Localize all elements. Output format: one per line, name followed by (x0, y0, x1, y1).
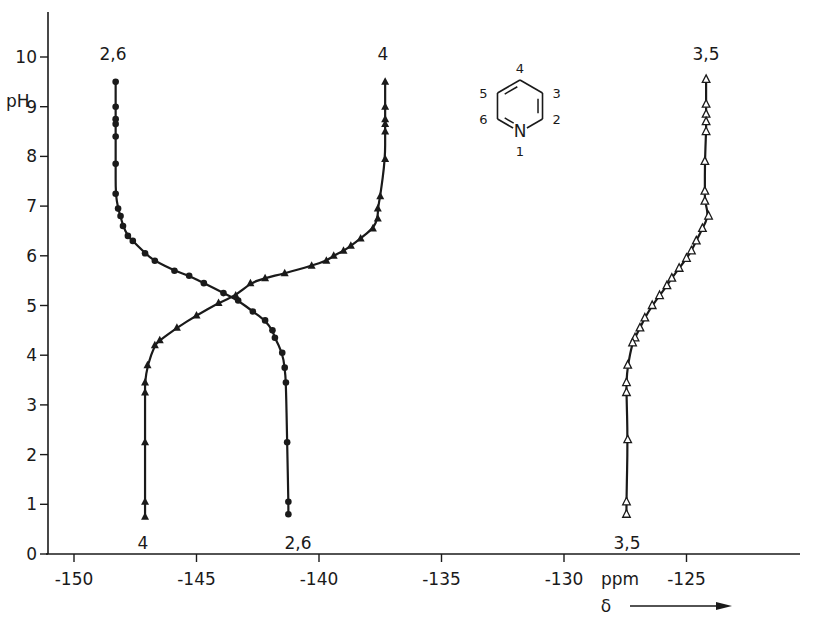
data-point-circle (112, 103, 119, 110)
delta-symbol: δ (601, 596, 611, 616)
y-tick-label: 5 (26, 296, 37, 316)
pyridine-structure: N123456 (479, 61, 560, 159)
ring-bond (527, 119, 543, 128)
data-point-triangle (376, 192, 384, 200)
data-point-triangle (141, 512, 149, 520)
data-point-triangle (381, 127, 389, 135)
position-5: 5 (479, 86, 487, 101)
position-2: 2 (552, 112, 560, 127)
data-point-circle (152, 257, 159, 264)
data-point-circle (142, 250, 149, 257)
data-point-open-triangle (702, 75, 710, 83)
data-point-triangle (374, 204, 382, 212)
curve-3-5 (626, 79, 707, 514)
y-tick-label: 0 (26, 544, 37, 564)
nitrogen-atom: N (514, 121, 527, 141)
position-4: 4 (516, 61, 524, 76)
label-3-5-bottom: 3,5 (613, 533, 640, 553)
y-tick-label: 3 (26, 395, 37, 415)
y-axis-title: pH (6, 91, 30, 111)
data-point-circle (112, 161, 119, 168)
y-tick-label: 10 (15, 47, 37, 67)
y-tick-label: 4 (26, 345, 37, 365)
position-3: 3 (552, 86, 560, 101)
data-point-open-triangle (701, 187, 709, 195)
data-point-triangle (141, 438, 149, 446)
data-point-circle (171, 267, 178, 274)
data-point-circle (250, 308, 257, 315)
data-point-circle (269, 327, 276, 334)
x-tick-label: -130 (545, 569, 584, 589)
position-1: 1 (516, 144, 524, 159)
position-6: 6 (479, 112, 487, 127)
data-point-triangle (144, 361, 152, 369)
data-point-open-triangle (623, 510, 631, 518)
data-point-open-triangle (702, 100, 710, 108)
label-2-6-bottom: 2,6 (284, 533, 311, 553)
x-tick-label: -125 (667, 569, 706, 589)
label-4-top: 4 (378, 44, 389, 64)
data-point-circle (112, 121, 119, 128)
data-point-circle (281, 364, 288, 371)
data-point-open-triangle (701, 197, 709, 205)
x-tick-label: -135 (422, 569, 461, 589)
y-tick-label: 6 (26, 246, 37, 266)
data-point-triangle (141, 388, 149, 396)
data-point-circle (112, 190, 119, 197)
data-point-circle (117, 213, 124, 220)
label-4-bottom: 4 (138, 533, 149, 553)
data-point-triangle (381, 154, 389, 162)
y-tick-label: 7 (26, 196, 37, 216)
data-point-circle (279, 349, 286, 356)
data-point-triangle (141, 378, 149, 386)
data-point-circle (220, 290, 227, 297)
data-point-open-triangle (623, 388, 631, 396)
data-point-open-triangle (705, 212, 713, 220)
data-point-circle (284, 439, 291, 446)
chart: -150-145-140-135-130-125012345678910pHpp… (0, 0, 816, 629)
data-point-circle (130, 238, 137, 245)
ring-bond (497, 119, 513, 128)
label-2-6-top: 2,6 (99, 44, 126, 64)
data-point-circle (112, 79, 119, 86)
y-tick-label: 8 (26, 146, 37, 166)
x-tick-label: -145 (177, 569, 216, 589)
data-point-circle (115, 205, 122, 212)
arrow-right-icon (716, 602, 732, 610)
curve-2-6 (116, 82, 289, 514)
y-tick-label: 1 (26, 494, 37, 514)
data-point-open-triangle (701, 157, 709, 165)
data-point-circle (262, 317, 269, 324)
data-point-circle (120, 223, 127, 230)
data-point-open-triangle (624, 435, 632, 443)
data-point-circle (201, 280, 208, 287)
x-tick-label: -150 (55, 569, 94, 589)
x-axis-title: ppm (601, 569, 639, 589)
curve-4 (145, 82, 385, 517)
data-point-circle (186, 272, 193, 279)
data-point-triangle (141, 497, 149, 505)
data-point-triangle (381, 77, 389, 85)
label-3-5-top: 3,5 (692, 44, 719, 64)
axes: -150-145-140-135-130-125012345678910pHpp… (6, 12, 800, 616)
data-point-open-triangle (702, 117, 710, 125)
data-point-open-triangle (624, 361, 632, 369)
data-point-open-triangle (623, 497, 631, 505)
data-point-circle (285, 511, 292, 518)
data-point-triangle (374, 214, 382, 222)
ring-bond (520, 80, 543, 93)
data-point-circle (283, 379, 290, 386)
data-point-triangle (381, 102, 389, 110)
ring-double-bond (505, 118, 514, 123)
data-point-open-triangle (702, 127, 710, 135)
data-point-circle (125, 233, 132, 240)
data-point-circle (112, 133, 119, 140)
x-tick-label: -140 (300, 569, 339, 589)
curves (112, 75, 712, 520)
y-tick-label: 2 (26, 445, 37, 465)
data-point-circle (272, 335, 279, 342)
data-point-circle (285, 499, 292, 506)
data-point-open-triangle (623, 378, 631, 386)
